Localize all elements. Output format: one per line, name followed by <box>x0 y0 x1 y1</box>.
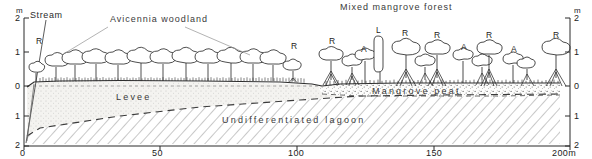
avicennia-tree-group <box>29 47 301 82</box>
right-axis-tick-1-up: 1 <box>574 47 579 57</box>
species-marker-a: A <box>461 42 467 52</box>
subsurface-strata <box>27 81 560 144</box>
zone-label-avicennia-woodland: Avicennia woodland <box>110 14 208 24</box>
x-axis-tick-0: 0 <box>20 148 25 158</box>
species-marker-r: R <box>553 30 560 40</box>
left-axis-tick-1-up: 1 <box>15 47 20 57</box>
tree-avicennia <box>172 47 199 81</box>
tree-avicennia <box>217 47 244 81</box>
left-axis-tick-2-up: 2 <box>15 13 20 23</box>
tree-avicennia <box>260 50 286 81</box>
mixed-forest-tree-group <box>319 36 570 86</box>
right-axis-ticks <box>565 18 570 146</box>
strata-label-levee: Levee <box>116 92 152 102</box>
tree-avicennia <box>127 47 154 81</box>
strata-label-undifferentiated-lagoon: Undifferentiated lagoon <box>222 115 366 125</box>
left-axis-tick-0: 0 <box>15 81 20 91</box>
species-marker-r: R <box>329 36 336 46</box>
species-marker-r: R <box>434 30 441 40</box>
species-marker-a: A <box>361 44 367 54</box>
x-axis-tick-150: 150 <box>426 148 442 158</box>
right-axis-tick-0: 0 <box>574 81 579 91</box>
tree-laguncularia <box>374 36 383 83</box>
cross-section-drawing <box>0 0 592 159</box>
x-axis-tick-200m: 200m <box>552 148 576 158</box>
right-axis-tick-2-up: 2 <box>574 13 579 23</box>
leader-avicennia-right <box>185 27 250 55</box>
tree-rhizophora <box>319 47 343 86</box>
species-marker-r: R <box>402 28 409 38</box>
right-axis-tick-1-down: 1 <box>574 111 579 121</box>
species-marker-r: R <box>36 36 43 46</box>
left-axis-tick-1-down: 1 <box>15 111 20 121</box>
zone-label-mixed-mangrove-forest: Mixed mangrove forest <box>340 2 453 12</box>
x-axis-tick-100: 100 <box>288 148 304 158</box>
species-marker-l: L <box>376 25 381 35</box>
figure-canvas: m 2 1 0 1 2 m 2 1 0 1 2 0 50 100 150 200… <box>0 0 592 159</box>
strata-label-mangrove-peat: Mangrove peat <box>372 86 461 96</box>
zone-label-stream: Stream <box>30 10 63 20</box>
tree-avicennia <box>82 49 109 81</box>
species-marker-r: R <box>486 30 493 40</box>
x-axis-tick-50: 50 <box>152 148 163 158</box>
tree-avicennia <box>453 48 473 83</box>
species-marker-a: A <box>511 44 517 54</box>
tree-rhizophora <box>542 38 570 86</box>
species-marker-r: R <box>291 41 298 51</box>
